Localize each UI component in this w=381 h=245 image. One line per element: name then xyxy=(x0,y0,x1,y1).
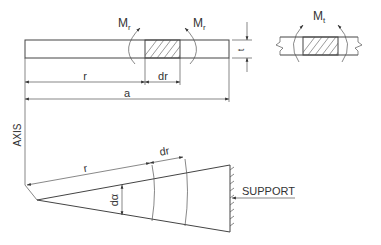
section-view: Mr Mr t r dr a xyxy=(25,16,252,118)
arc-r-plus-dr xyxy=(185,159,188,226)
outer-radius-label: a xyxy=(124,87,131,99)
support-label: SUPPORT xyxy=(242,185,295,197)
moment-right-label: Mr xyxy=(193,16,206,32)
moment-arc-left xyxy=(129,28,140,64)
plan-view: AXIS r dr dα SUPPORT xyxy=(12,118,295,232)
plan-increment-label: dr xyxy=(158,144,170,158)
increment-label: dr xyxy=(158,70,168,82)
moment-left-label: Mr xyxy=(118,16,131,32)
axis-label: AXIS xyxy=(12,123,23,146)
plan-radius-dimension xyxy=(27,163,150,185)
arc-r xyxy=(152,165,155,221)
sector-edge-upper xyxy=(37,165,230,200)
tangential-moment-label: Mt xyxy=(313,9,326,25)
support-hatch xyxy=(230,167,234,226)
radius-label: r xyxy=(83,70,87,82)
sector-edge-lower xyxy=(37,200,230,232)
break-mark-right xyxy=(355,37,362,55)
moment-arc-right xyxy=(185,28,196,64)
plate-diagram: Mr Mr t r dr a xyxy=(0,0,381,245)
plate-section xyxy=(25,40,229,58)
break-mark-left xyxy=(276,37,283,55)
tangential-detail-view: Mt xyxy=(276,9,362,62)
plan-increment-dimension xyxy=(150,157,183,163)
angle-label: dα xyxy=(108,193,120,206)
plan-radius-label: r xyxy=(82,162,88,175)
thickness-label: t xyxy=(236,48,246,51)
